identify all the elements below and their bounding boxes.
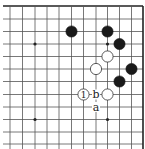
point-label-a: a (92, 101, 100, 114)
point-label-text: a (93, 101, 100, 114)
black-stone-disc (126, 63, 137, 74)
white-stone (102, 89, 113, 100)
white-stone-disc (102, 89, 113, 100)
white-stone (90, 63, 101, 74)
black-stone (114, 38, 125, 49)
black-stone-disc (114, 38, 125, 49)
point-labels: ba (92, 88, 100, 114)
go-board: 1 ba (0, 0, 145, 149)
black-stone-disc (66, 26, 77, 37)
white-stone-disc (90, 63, 101, 74)
star-point (33, 118, 36, 121)
white-stone: 1 (78, 89, 89, 100)
move-number-label: 1 (81, 90, 87, 100)
point-label-text: b (92, 88, 99, 101)
stones: 1 (66, 26, 137, 100)
black-stone-disc (114, 76, 125, 87)
point-label-b: b (92, 88, 100, 101)
star-point (33, 42, 36, 45)
black-stone (102, 26, 113, 37)
star-point (106, 118, 109, 121)
black-stone (114, 76, 125, 87)
white-stone-disc (102, 51, 113, 62)
black-stone (66, 26, 77, 37)
white-stone (102, 51, 113, 62)
star-point (106, 42, 109, 45)
black-stone-disc (102, 26, 113, 37)
black-stone (126, 63, 137, 74)
